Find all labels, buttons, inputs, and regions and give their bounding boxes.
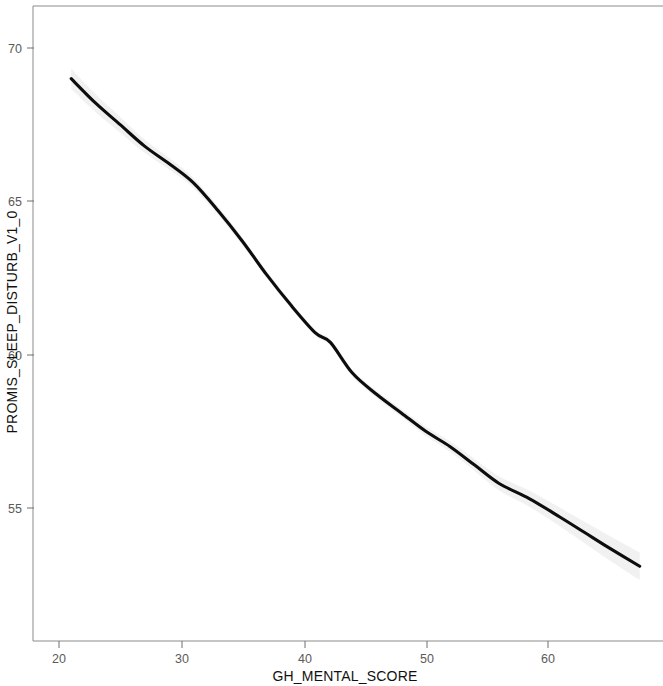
y-tick-label-55: 55 [8,502,22,516]
y-tick-label-70: 70 [8,42,22,56]
chart-figure: 70 65 60 55 20 30 40 50 60 GH_MENTAL_SCO… [0,0,663,686]
x-axis-title: GH_MENTAL_SCORE [272,668,417,684]
y-tick-label-65: 65 [8,195,22,209]
x-tick-label-50: 50 [420,652,434,666]
x-tick-label-40: 40 [298,652,312,666]
x-tick-label-20: 20 [52,652,66,666]
x-tick-label-60: 60 [541,652,555,666]
chart-canvas: 70 65 60 55 20 30 40 50 60 GH_MENTAL_SCO… [0,0,663,686]
y-axis-title: PROMIS_SLEEP_DISTURB_V1_0 [4,211,20,434]
x-tick-label-30: 30 [175,652,189,666]
